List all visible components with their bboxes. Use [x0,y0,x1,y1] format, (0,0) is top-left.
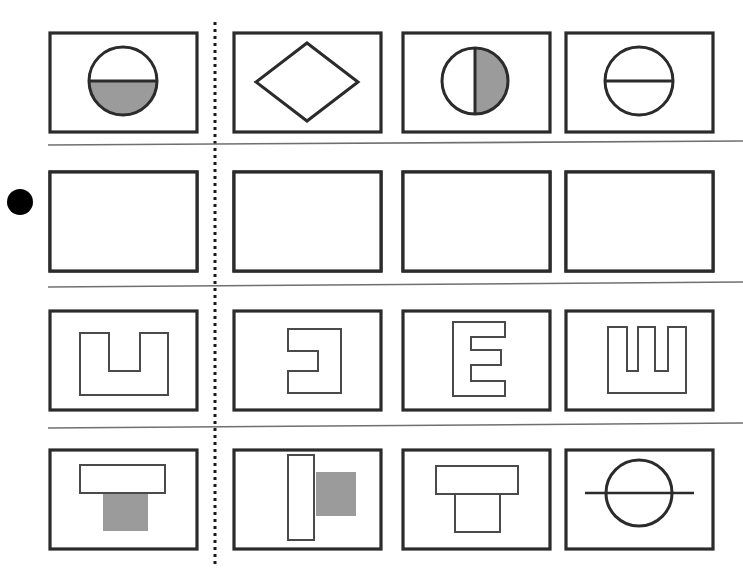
white-stem-block [455,494,500,532]
figure-matrix-sheet [0,0,743,575]
cell-vertical-s-curve[interactable] [50,168,197,283]
e-shape-outline-icon [453,322,505,396]
cell-t-all-white[interactable] [403,450,550,549]
white-top-bar [436,466,518,494]
white-top-bar [80,465,165,493]
cell-circle-horizontal-line[interactable] [566,33,713,132]
cell-t-white-bar-gray-stem[interactable] [50,450,197,549]
cell-frame-top [566,172,713,271]
cell-comb-outline[interactable] [566,311,713,410]
cell-frame-top [403,172,550,271]
comb-shape-outline-icon [608,327,686,393]
cell-circle-with-through-line[interactable] [566,450,713,549]
rule-after-row-1 [48,141,743,145]
cell-circle-half-filled-right[interactable] [403,33,550,132]
cell-t-rotated-white-bar-gray-block[interactable] [234,450,381,549]
row-marker-dot [7,189,33,215]
cell-frame [566,450,713,549]
worksheet-page [0,0,743,575]
cell-circle-half-filled-bottom[interactable] [50,33,197,132]
rule-after-row-2 [48,282,743,287]
rule-after-row-3 [48,423,743,428]
cell-diagonal-band[interactable] [234,172,381,271]
cell-frame [234,311,381,410]
cell-e-outline[interactable] [403,311,550,410]
cell-diamond-outline[interactable] [234,33,381,132]
cell-c-outline-reversed[interactable] [234,311,381,410]
cell-u-outline[interactable] [50,311,197,410]
gray-side-block [316,472,356,516]
white-vertical-bar [288,455,314,540]
cell-horizontal-s-wave[interactable] [560,172,714,271]
cell-frame-top [234,172,381,271]
gray-stem-block [103,493,148,531]
cell-x-cross-bands[interactable] [403,172,550,271]
cell-frame-top [50,172,197,271]
